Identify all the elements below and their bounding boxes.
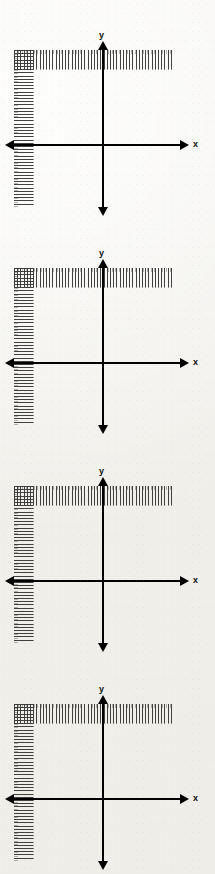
y-axis-arrow-up-3 bbox=[98, 477, 108, 486]
coordinate-plane-3: x y bbox=[0, 433, 215, 651]
x-axis-arrow-left-1 bbox=[5, 140, 14, 150]
y-axis-label-4: y bbox=[99, 685, 104, 694]
y-axis-2 bbox=[102, 268, 104, 425]
x-axis-arrow-right-3 bbox=[180, 576, 189, 586]
x-axis-arrow-left-2 bbox=[5, 358, 14, 368]
y-axis-label-1: y bbox=[99, 31, 104, 40]
dot-grid-4 bbox=[14, 704, 172, 861]
coordinate-plane-4: x y bbox=[0, 651, 215, 874]
dot-grid-3 bbox=[14, 486, 172, 643]
y-axis-label-2: y bbox=[99, 249, 104, 258]
dot-grid-2 bbox=[14, 268, 172, 425]
x-axis-1 bbox=[14, 144, 180, 146]
y-axis-4 bbox=[102, 704, 104, 861]
x-axis-arrow-right-4 bbox=[180, 794, 189, 804]
worksheet-page: x y x y x y x y bbox=[0, 0, 215, 874]
x-axis-3 bbox=[14, 580, 180, 582]
y-axis-label-3: y bbox=[99, 467, 104, 476]
x-axis-label-3: x bbox=[193, 576, 198, 585]
x-axis-arrow-right-2 bbox=[180, 358, 189, 368]
x-axis-arrow-right-1 bbox=[180, 140, 189, 150]
x-axis-2 bbox=[14, 362, 180, 364]
x-axis-4 bbox=[14, 798, 180, 800]
x-axis-label-1: x bbox=[193, 140, 198, 149]
x-axis-label-4: x bbox=[193, 794, 198, 803]
y-axis-arrow-up-1 bbox=[98, 41, 108, 50]
x-axis-label-2: x bbox=[193, 358, 198, 367]
x-axis-arrow-left-4 bbox=[5, 794, 14, 804]
coordinate-plane-1: x y bbox=[0, 0, 215, 215]
y-axis-1 bbox=[102, 50, 104, 207]
coordinate-plane-2: x y bbox=[0, 215, 215, 433]
x-axis-arrow-left-3 bbox=[5, 576, 14, 586]
y-axis-arrow-down-4 bbox=[98, 861, 108, 870]
y-axis-3 bbox=[102, 486, 104, 643]
y-axis-arrow-up-4 bbox=[98, 695, 108, 704]
dot-grid-1 bbox=[14, 50, 172, 207]
y-axis-arrow-up-2 bbox=[98, 259, 108, 268]
